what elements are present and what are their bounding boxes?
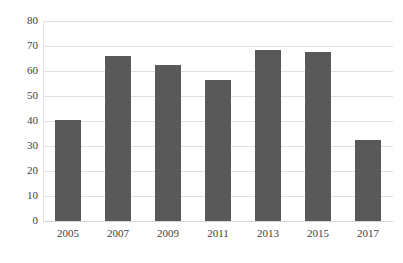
x-axis-tick-labels: 2005200720092011201320152017 bbox=[43, 227, 393, 247]
plot-area bbox=[43, 21, 393, 221]
y-tick-label: 60 bbox=[4, 65, 38, 76]
y-tick-label: 50 bbox=[4, 90, 38, 101]
y-tick-label: 80 bbox=[4, 15, 38, 26]
y-tick-label: 30 bbox=[4, 140, 38, 151]
gridline bbox=[43, 71, 393, 72]
bar bbox=[205, 80, 231, 221]
y-tick-label: 40 bbox=[4, 115, 38, 126]
bar bbox=[55, 120, 81, 221]
y-tick-label: 10 bbox=[4, 190, 38, 201]
bar bbox=[255, 50, 281, 222]
y-tick-label: 70 bbox=[4, 40, 38, 51]
y-axis-tick-labels: 01020304050607080 bbox=[0, 0, 38, 263]
bar bbox=[155, 65, 181, 222]
y-tick-label: 0 bbox=[4, 215, 38, 226]
x-tick-label: 2017 bbox=[338, 227, 398, 239]
bar bbox=[105, 56, 131, 222]
bar-chart: 01020304050607080 2005200720092011201320… bbox=[0, 0, 403, 263]
y-tick-label: 20 bbox=[4, 165, 38, 176]
gridline bbox=[43, 46, 393, 47]
bar bbox=[355, 140, 381, 221]
gridline bbox=[43, 21, 393, 22]
bar bbox=[305, 52, 331, 222]
gridline bbox=[43, 221, 393, 222]
